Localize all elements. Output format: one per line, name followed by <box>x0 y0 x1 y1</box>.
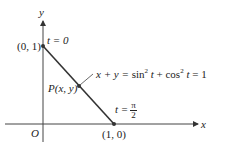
parametric-line-diagram: y x O (0, 1) t = 0 (1, 0) t =π2 P(x, y) … <box>0 0 228 150</box>
x-axis-label: x <box>201 119 206 130</box>
point-0-1 <box>41 44 45 48</box>
eq-sup1: 2 <box>144 67 148 75</box>
y-axis-label: y <box>39 7 44 18</box>
eq-cos: + cos <box>157 68 181 80</box>
leader-line <box>80 74 93 85</box>
origin-label: O <box>31 128 39 139</box>
point-top-label: (0, 1) <box>17 41 41 52</box>
eq-lhs: x + y = <box>96 68 129 80</box>
equation-label: x + y = sin2 t + cos2 t = 1 <box>96 68 207 80</box>
t-zero-label: t = 0 <box>47 35 68 46</box>
t-pi-over-2-label: t =π2 <box>115 101 137 120</box>
point-p-label: P(x, y) <box>48 83 77 94</box>
eq-sin: sin <box>132 68 145 80</box>
t-equals: t = <box>115 103 128 115</box>
point-1-0 <box>112 122 116 126</box>
point-bottom-label: (1, 0) <box>102 129 126 140</box>
eq-t1: t <box>151 68 154 80</box>
eq-rhs: = 1 <box>192 68 206 80</box>
pi-over-2-fraction: π2 <box>130 101 137 120</box>
fraction-denominator: 2 <box>131 111 136 120</box>
eq-t2: t <box>186 68 189 80</box>
eq-sup2: 2 <box>180 67 184 75</box>
